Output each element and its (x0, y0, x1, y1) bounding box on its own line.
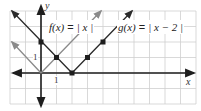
coordinate-plane (0, 0, 201, 111)
y-unit-label: 1 (33, 53, 38, 62)
f-label-rhs: | x | (77, 21, 93, 33)
point-0-2 (39, 40, 44, 45)
point-2-0 (70, 71, 75, 76)
y-axis-label: y (45, 1, 49, 11)
point-4-2 (101, 40, 106, 45)
point-1-1 (54, 55, 59, 60)
x-axis-label: x (186, 77, 190, 87)
point-3-1 (85, 55, 90, 60)
x-unit-label: 1 (54, 76, 59, 85)
g-label-eq: = (136, 21, 149, 33)
g-label-rhs: | x − 2 | (148, 21, 183, 33)
f-label-eq: = (64, 21, 77, 33)
g-label-lhs: g(x) (118, 21, 136, 33)
g-function-label: g(x) = | x − 2 | (117, 20, 184, 34)
f-function-label: f(x) = | x | (48, 20, 94, 34)
f-label-lhs: f(x) (49, 21, 64, 33)
